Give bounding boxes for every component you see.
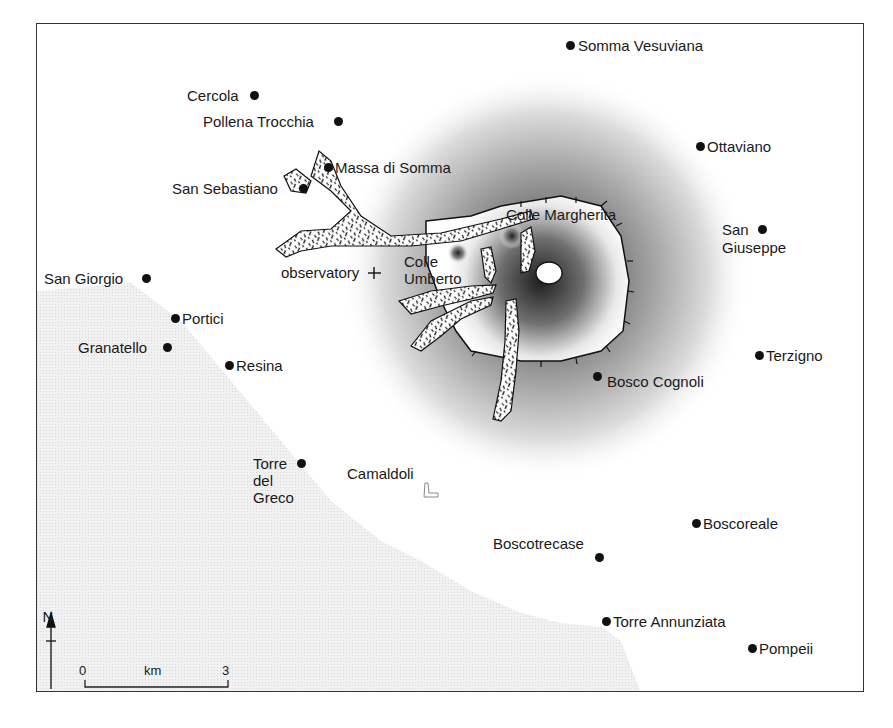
- town-dot: [225, 361, 234, 370]
- town-dot: [334, 117, 343, 126]
- town-dot: [696, 142, 705, 151]
- town-dot: [142, 274, 151, 283]
- north-label: N: [36, 608, 60, 625]
- town-label-massa-di-somma: Massa di Somma: [335, 159, 451, 176]
- scale-end-label: 3: [222, 662, 229, 679]
- colle-umberto-label-line1: Colle: [404, 253, 438, 270]
- town-label-portici: Portici: [182, 310, 224, 327]
- town-label-bosco-cognoli: Bosco Cognoli: [607, 373, 704, 390]
- camaldoli-label: Camaldoli: [347, 465, 414, 482]
- town-label-boscoreale: Boscoreale: [703, 515, 778, 532]
- colle-umberto-label-line2: Umberto: [404, 270, 462, 287]
- colle-umberto-mound: [447, 242, 469, 264]
- town-label-resina: Resina: [236, 357, 283, 374]
- town-dot: [299, 184, 308, 193]
- town-dot: [595, 553, 604, 562]
- map-frame: [36, 23, 864, 692]
- colle-margherita-label: Colle Margherita: [506, 206, 616, 223]
- town-label-torre-del-greco: Torre del Greco: [253, 455, 297, 506]
- town-dot: [250, 91, 259, 100]
- town-label-ottaviano: Ottaviano: [707, 138, 771, 155]
- camaldoli-symbol: [424, 483, 438, 497]
- town-label-granatello: Granatello: [78, 339, 147, 356]
- town-dot: [593, 372, 602, 381]
- observatory-label: observatory: [281, 264, 359, 281]
- town-dot: [163, 343, 172, 352]
- town-label-terzigno: Terzigno: [766, 347, 823, 364]
- town-label-boscotrecase: Boscotrecase: [493, 535, 584, 552]
- town-dot: [171, 314, 180, 323]
- town-dot: [692, 519, 701, 528]
- town-label-somma-vesuviana: Somma Vesuviana: [578, 37, 703, 54]
- town-dot: [324, 163, 333, 172]
- town-label-san-giuseppe: San Giuseppe: [722, 221, 802, 257]
- town-label-pollena-trocchia: Pollena Trocchia: [203, 113, 314, 130]
- town-dot: [602, 617, 611, 626]
- town-label-pompeii: Pompeii: [759, 640, 813, 657]
- town-label-torre-annunziata: Torre Annunziata: [613, 613, 726, 630]
- town-dot: [297, 459, 306, 468]
- map-canvas: [37, 24, 864, 692]
- town-label-san-giorgio: San Giorgio: [44, 270, 123, 287]
- scale-start-label: 0: [79, 662, 86, 679]
- inner-crater: [536, 262, 562, 284]
- scale-unit-label: km: [144, 662, 161, 679]
- town-dot: [566, 41, 575, 50]
- town-label-san-sebastiano: San Sebastiano: [172, 180, 278, 197]
- town-label-cercola: Cercola: [187, 87, 239, 104]
- town-dot: [755, 351, 764, 360]
- town-dot: [748, 644, 757, 653]
